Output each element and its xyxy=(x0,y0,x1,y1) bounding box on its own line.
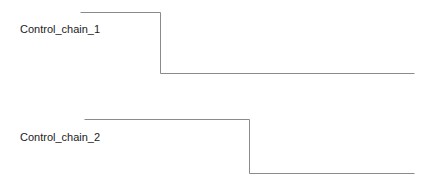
chain-2-waveform xyxy=(85,120,415,174)
chain-1-waveform xyxy=(81,13,415,74)
waveforms xyxy=(0,0,434,181)
